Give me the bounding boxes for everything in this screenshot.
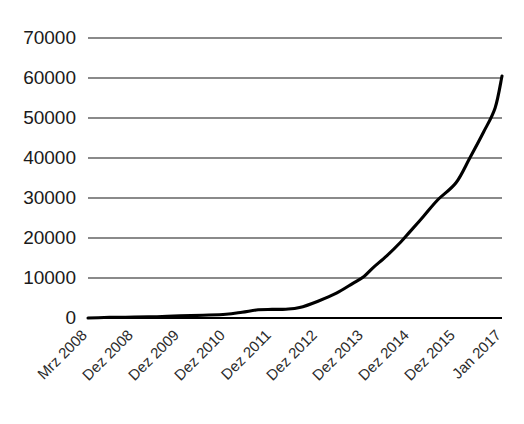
y-axis-tick-label: 10000 (23, 267, 76, 288)
x-axis-tick-labels: Mrz 2008Dez 2008Dez 2009Dez 2010Dez 2011… (34, 326, 504, 383)
x-axis-tick-label: Dez 2010 (171, 326, 228, 383)
y-axis-tick-label: 20000 (23, 227, 76, 248)
y-axis-tick-label: 40000 (23, 147, 76, 168)
chart-canvas: 010000200003000040000500006000070000 Mrz… (0, 0, 524, 424)
y-axis-tick-label: 50000 (23, 107, 76, 128)
y-axis-tick-label: 60000 (23, 67, 76, 88)
x-axis-tick-label: Jan 2017 (448, 326, 504, 382)
x-axis-tick-label: Dez 2015 (401, 326, 458, 383)
gridlines-group (88, 38, 502, 318)
y-axis-tick-label: 70000 (23, 27, 76, 48)
series-line-path (88, 76, 502, 318)
y-axis-tick-labels: 010000200003000040000500006000070000 (23, 27, 76, 328)
y-axis-tick-label: 30000 (23, 187, 76, 208)
line-chart: 010000200003000040000500006000070000 Mrz… (0, 0, 524, 424)
y-axis-tick-label: 0 (65, 307, 76, 328)
data-series-group (88, 76, 502, 318)
